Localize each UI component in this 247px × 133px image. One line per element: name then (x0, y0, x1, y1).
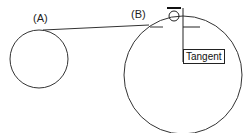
snap-tooltip: Tangent (183, 49, 225, 64)
point-a-label: (A) (33, 13, 48, 24)
tangent-line[interactable] (43, 25, 149, 30)
diagram-canvas: (A) (B) Tangent (0, 0, 247, 133)
small-circle[interactable] (10, 30, 68, 88)
tangent-snap-icon (167, 8, 181, 21)
point-b-label: (B) (131, 9, 146, 20)
